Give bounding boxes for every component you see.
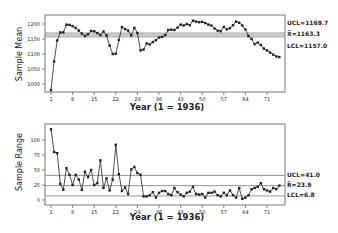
x-tick-label: 71	[264, 96, 270, 102]
data-point	[105, 177, 107, 179]
data-point	[133, 27, 135, 29]
data-point	[78, 178, 80, 180]
data-point	[155, 39, 157, 41]
data-point	[220, 30, 222, 32]
data-point	[112, 178, 114, 180]
data-point	[68, 24, 70, 26]
data-point	[216, 29, 218, 31]
data-point	[238, 22, 240, 24]
range-y-axis: 0255075100	[30, 137, 45, 203]
y-tick-label: 100	[30, 137, 40, 143]
xbar-x-axis: 18152229364350576471	[49, 92, 270, 102]
xbar-chart: 10001050110011501200 1815222936435057647…	[15, 15, 328, 112]
data-point	[189, 190, 191, 192]
xbar-r-charts: 10001050110011501200 1815222936435057647…	[0, 0, 338, 233]
y-tick-label: 0	[37, 197, 40, 203]
data-point	[124, 186, 126, 188]
data-point	[74, 27, 76, 29]
x-tick-label: 57	[221, 209, 227, 215]
data-point	[263, 47, 265, 49]
data-point	[167, 193, 169, 195]
y-tick-label: 1150	[27, 36, 40, 42]
data-point	[108, 189, 110, 191]
range-lcl-label: LCL=6.8	[287, 191, 315, 198]
xbar-x-axis-label: Year (1 = 1936)	[129, 102, 205, 112]
data-point	[229, 189, 231, 191]
xbar-ucl-label: UCL=1169.7	[287, 19, 328, 26]
data-point	[68, 174, 70, 176]
data-line	[51, 21, 279, 90]
data-point	[93, 30, 95, 32]
data-point	[59, 31, 61, 33]
data-point	[136, 32, 138, 34]
data-point	[235, 20, 237, 22]
data-point	[121, 190, 123, 192]
xbar-lcl-label: LCL=1157.0	[287, 42, 327, 49]
data-point	[133, 166, 135, 168]
data-point	[90, 30, 92, 32]
data-point	[115, 53, 117, 55]
data-point	[84, 35, 86, 37]
data-point	[247, 194, 249, 196]
data-point	[102, 187, 104, 189]
data-point	[210, 192, 212, 194]
data-point	[201, 21, 203, 23]
data-point	[102, 30, 104, 32]
y-tick-label: 1050	[27, 66, 40, 72]
range-plot-frame	[45, 124, 285, 205]
data-point	[145, 195, 147, 197]
data-point	[65, 167, 67, 169]
data-point	[257, 41, 259, 43]
x-tick-label: 64	[242, 209, 248, 215]
data-point	[226, 28, 228, 30]
data-point	[229, 27, 231, 29]
data-point	[108, 44, 110, 46]
data-point	[130, 168, 132, 170]
data-point	[186, 23, 188, 25]
xbar-y-axis-label: Sample Mean	[15, 27, 24, 81]
data-point	[81, 189, 83, 191]
data-point	[195, 20, 197, 22]
data-point	[173, 29, 175, 31]
data-point	[105, 34, 107, 36]
data-point	[182, 195, 184, 197]
data-point	[164, 190, 166, 192]
data-point	[158, 192, 160, 194]
data-point	[118, 173, 120, 175]
data-point	[74, 174, 76, 176]
data-point	[250, 38, 252, 40]
data-point	[142, 195, 144, 197]
data-point	[244, 196, 246, 198]
data-point	[179, 23, 181, 25]
xbar-series	[50, 20, 281, 92]
data-point	[220, 195, 222, 197]
y-tick-label: 1200	[27, 21, 40, 27]
data-point	[275, 188, 277, 190]
data-point	[182, 24, 184, 26]
data-point	[253, 187, 255, 189]
data-point	[176, 191, 178, 193]
data-point	[250, 188, 252, 190]
data-point	[269, 190, 271, 192]
data-point	[62, 31, 64, 33]
data-point	[238, 187, 240, 189]
y-tick-label: 75	[34, 152, 40, 158]
x-tick-label: 15	[91, 96, 97, 102]
data-point	[96, 182, 98, 184]
data-point	[269, 51, 271, 53]
data-point	[253, 43, 255, 45]
data-point	[207, 23, 209, 25]
xbar-y-axis: 10001050110011501200	[27, 21, 45, 87]
data-point	[213, 190, 215, 192]
data-point	[170, 194, 172, 196]
data-point	[260, 182, 262, 184]
data-point	[235, 196, 237, 198]
data-point	[272, 187, 274, 189]
range-y-axis-label: Sample Range	[15, 133, 24, 191]
data-point	[136, 172, 138, 174]
data-point	[71, 184, 73, 186]
range-x-axis-label: Year (1 = 1936)	[129, 212, 205, 222]
data-point	[50, 128, 52, 130]
data-point	[62, 189, 64, 191]
data-point	[244, 28, 246, 30]
